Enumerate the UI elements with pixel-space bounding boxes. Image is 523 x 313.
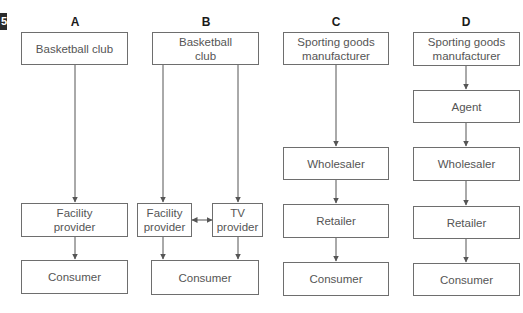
- a-basketball-club-node: Basketball club: [21, 32, 128, 65]
- c-manufacturer-node: Sporting goods manufacturer: [283, 32, 389, 65]
- c-wholesaler-node: Wholesaler: [283, 147, 389, 180]
- a-facility-provider-node: Facility provider: [21, 203, 128, 237]
- d-manufacturer-node: Sporting goods manufacturer: [413, 32, 520, 66]
- b-basketball-club-node: Basketball club: [152, 32, 259, 65]
- d-consumer-node: Consumer: [413, 263, 520, 296]
- b-facility-provider-node: Facility provider: [137, 203, 192, 237]
- a-consumer-node: Consumer: [21, 260, 128, 294]
- c-consumer-node: Consumer: [283, 262, 389, 296]
- d-retailer-node: Retailer: [413, 206, 520, 239]
- b-consumer-node: Consumer: [151, 260, 259, 295]
- c-retailer-node: Retailer: [283, 204, 389, 238]
- d-wholesaler-node: Wholesaler: [413, 147, 520, 181]
- d-agent-node: Agent: [413, 90, 520, 123]
- b-tv-provider-node: TV provider: [212, 203, 263, 237]
